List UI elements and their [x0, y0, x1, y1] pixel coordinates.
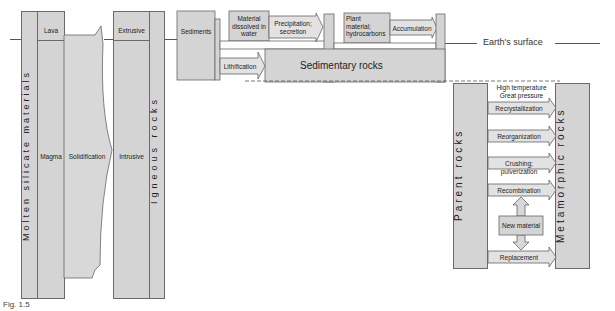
process-recrystallization: Recrystallization — [488, 105, 550, 113]
metamorphic-arrows — [0, 0, 615, 311]
process-recombination: Recombination — [488, 187, 550, 195]
figure-caption: Fig. 1.5 — [3, 300, 30, 309]
process-replacement: Replacement — [488, 254, 550, 262]
new-material-label: New material — [499, 222, 543, 230]
process-reorganization: Reorganization — [488, 133, 550, 141]
process-crushing: Crushing; pulverization — [488, 160, 550, 175]
